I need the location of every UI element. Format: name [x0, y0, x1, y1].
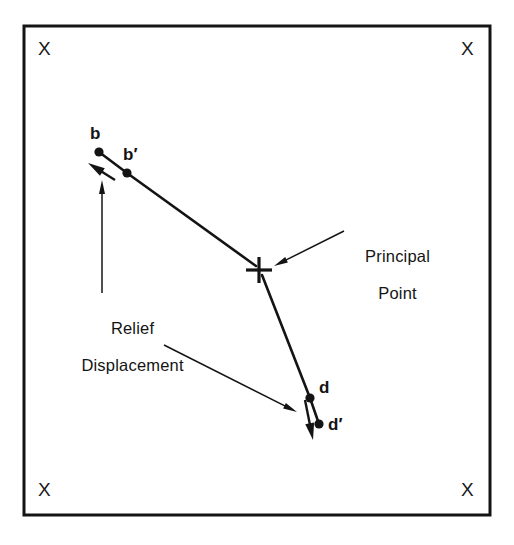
fiducial-bottom-right: X	[461, 479, 474, 501]
leader-relief-displacement-to-d-head	[283, 403, 297, 412]
fiducial-top-right: X	[461, 38, 474, 60]
leader-principal-point-shaft	[285, 231, 344, 261]
point-b-prime-label: b′	[123, 145, 137, 164]
point-d-prime-label: d′	[328, 415, 342, 434]
principal-point-annotation: Principal Point	[346, 228, 430, 322]
diagram-canvas	[0, 0, 514, 545]
point-d-dot	[305, 393, 314, 402]
displacement-vector-d-shaft	[305, 400, 310, 425]
relief-displacement-annotation-line1: Relief	[111, 319, 154, 337]
point-d-label: d	[319, 378, 329, 397]
point-b-prime-dot	[122, 168, 131, 177]
relief-displacement-annotation-line2: Displacement	[81, 356, 183, 374]
relief-displacement-diagram: XXXX bb′dd′ Principal Point Relief Displ…	[0, 0, 514, 545]
displacement-vector-b-shaft	[101, 171, 115, 180]
point-b-dot	[94, 147, 103, 156]
radial-line-principal-point-to-d	[262, 275, 310, 398]
fiducial-top-left: X	[38, 38, 51, 60]
leader-relief-displacement-to-b-head	[99, 180, 105, 194]
relief-displacement-annotation: Relief Displacement	[62, 300, 184, 394]
point-b-label: b	[90, 124, 100, 143]
leader-principal-point-head	[274, 257, 288, 266]
point-d-prime-dot	[314, 419, 323, 428]
radial-line-b-to-principal-point	[127, 173, 256, 266]
displacement-vector-b-head	[88, 163, 105, 176]
principal-point-annotation-line1: Principal	[365, 247, 430, 265]
fiducial-bottom-left: X	[38, 479, 51, 501]
displacement-vector-d-head	[305, 422, 314, 440]
principal-point-annotation-line2: Point	[378, 284, 417, 302]
